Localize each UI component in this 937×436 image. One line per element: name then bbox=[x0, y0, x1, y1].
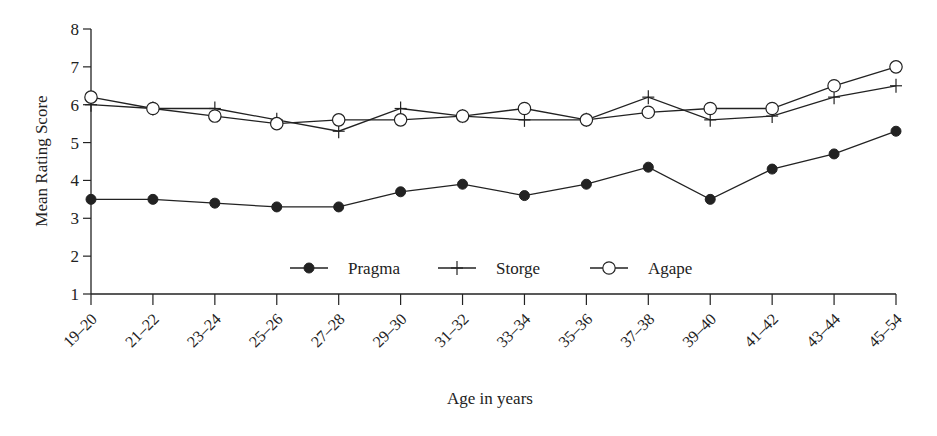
plus-marker bbox=[642, 90, 654, 104]
y-tick-label: 7 bbox=[71, 58, 80, 77]
x-tick-label: 21–22 bbox=[122, 310, 162, 350]
x-tick-label: 23–24 bbox=[184, 310, 224, 350]
open-circle-marker bbox=[271, 117, 283, 129]
y-tick-label: 1 bbox=[71, 285, 80, 304]
filled-circle-marker bbox=[581, 179, 591, 189]
open-circle-marker bbox=[603, 262, 615, 274]
markers-pragma bbox=[86, 126, 901, 212]
y-axis-label: Mean Rating Score bbox=[32, 95, 51, 226]
open-circle-marker bbox=[766, 102, 778, 114]
series-lines bbox=[85, 61, 902, 212]
x-tick-label: 27–28 bbox=[308, 310, 348, 350]
filled-circle-marker bbox=[829, 149, 839, 159]
x-tick-label: 33–34 bbox=[493, 310, 533, 350]
x-tick-label: 29–30 bbox=[369, 310, 409, 350]
open-circle-marker bbox=[518, 102, 530, 114]
open-circle-marker bbox=[209, 110, 221, 122]
filled-circle-marker bbox=[272, 202, 282, 212]
legend: PragmaStorgeAgape bbox=[290, 259, 692, 278]
filled-circle-marker bbox=[86, 194, 96, 204]
filled-circle-marker bbox=[210, 198, 220, 208]
open-circle-marker bbox=[580, 114, 592, 126]
filled-circle-marker bbox=[767, 164, 777, 174]
filled-circle-marker bbox=[396, 187, 406, 197]
open-circle-marker bbox=[828, 80, 840, 92]
open-circle-marker bbox=[704, 102, 716, 114]
open-circle-marker bbox=[642, 106, 654, 118]
filled-circle-marker bbox=[643, 162, 653, 172]
plus-marker bbox=[890, 79, 902, 93]
legend-label: Pragma bbox=[348, 259, 400, 278]
filled-circle-marker bbox=[519, 191, 529, 201]
x-tick-label: 43–44 bbox=[803, 310, 843, 350]
open-circle-marker bbox=[456, 110, 468, 122]
y-tick-label: 8 bbox=[71, 20, 80, 39]
open-circle-marker bbox=[332, 114, 344, 126]
x-tick-label: 31–32 bbox=[431, 310, 471, 350]
markers-agape bbox=[85, 61, 902, 130]
y-tick-label: 2 bbox=[71, 247, 80, 266]
x-axis-label: Age in years bbox=[447, 389, 533, 408]
x-tick-label: 19–20 bbox=[60, 310, 100, 350]
y-tick-label: 3 bbox=[71, 209, 80, 228]
open-circle-marker bbox=[147, 102, 159, 114]
y-axis: 12345678 bbox=[71, 20, 92, 304]
x-tick-label: 35–36 bbox=[555, 310, 595, 350]
line-chart: 12345678 19–2021–2223–2425–2627–2829–303… bbox=[0, 0, 937, 436]
y-tick-label: 6 bbox=[71, 96, 80, 115]
legend-label: Agape bbox=[648, 259, 692, 278]
x-tick-label: 25–26 bbox=[246, 310, 286, 350]
legend-item-storge: Storge bbox=[438, 259, 540, 278]
y-tick-label: 5 bbox=[71, 134, 80, 153]
open-circle-marker bbox=[890, 61, 902, 73]
filled-circle-marker bbox=[334, 202, 344, 212]
legend-label: Storge bbox=[496, 259, 540, 278]
legend-item-agape: Agape bbox=[590, 259, 692, 278]
x-tick-label: 37–38 bbox=[617, 310, 657, 350]
filled-circle-marker bbox=[304, 263, 314, 273]
x-tick-label: 41–42 bbox=[741, 310, 781, 350]
filled-circle-marker bbox=[891, 126, 901, 136]
filled-circle-marker bbox=[458, 179, 468, 189]
open-circle-marker bbox=[394, 114, 406, 126]
x-axis: 19–2021–2223–2425–2627–2829–3031–3233–34… bbox=[60, 294, 905, 350]
filled-circle-marker bbox=[148, 194, 158, 204]
x-tick-label: 45–54 bbox=[865, 310, 905, 350]
open-circle-marker bbox=[85, 91, 97, 103]
x-tick-label: 39–40 bbox=[679, 310, 719, 350]
filled-circle-marker bbox=[705, 194, 715, 204]
plus-marker bbox=[451, 261, 463, 275]
y-tick-label: 4 bbox=[71, 171, 80, 190]
legend-item-pragma: Pragma bbox=[290, 259, 400, 278]
